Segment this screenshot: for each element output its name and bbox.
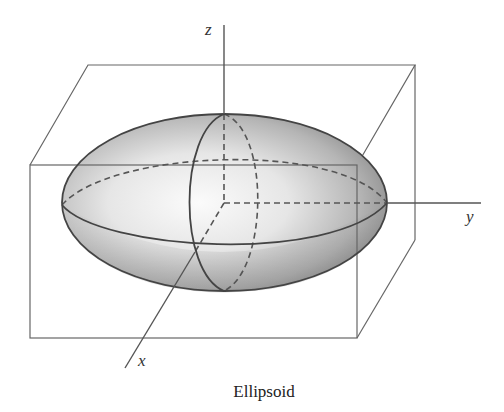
x-axis-label: x	[137, 351, 146, 370]
figure-caption: Ellipsoid	[233, 382, 295, 401]
z-axis-label: z	[204, 20, 212, 39]
y-axis-label: y	[464, 207, 474, 226]
box-bottom-right-edge	[357, 240, 415, 338]
ellipsoid-diagram: z y x Ellipsoid	[0, 0, 504, 412]
